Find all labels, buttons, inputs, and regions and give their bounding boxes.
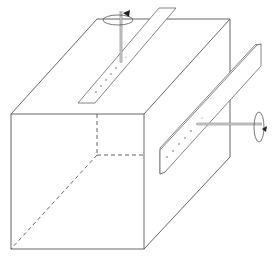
rotation-arrow-icon [262, 126, 267, 132]
side-slotted-strip [160, 44, 261, 174]
top-slotted-strip [78, 8, 176, 103]
box-diagram-svg [0, 0, 274, 259]
hidden-edges [11, 114, 144, 249]
box-diagram [0, 0, 274, 259]
